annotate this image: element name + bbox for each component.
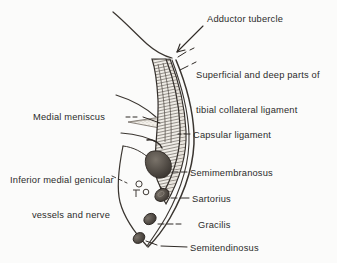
label-capsular-ligament: Capsular ligament	[193, 130, 271, 142]
label-semimembranosus: Semimembranosus	[190, 168, 273, 180]
label-line-1: Superficial and deep parts of	[196, 70, 320, 82]
label-line-1: Inferior medial genicular	[10, 175, 110, 187]
label-tibial-collateral-ligament: Superficial and deep parts of tibial col…	[196, 47, 320, 139]
genicular-vessels	[133, 181, 149, 197]
label-inferior-medial-genicular: Inferior medial genicular vessels and ne…	[10, 152, 110, 244]
anatomical-figure: Adductor tubercle Superficial and deep p…	[0, 0, 337, 263]
leader-genicular	[112, 176, 127, 183]
label-sartorius: Sartorius	[192, 194, 231, 206]
leader-deep-part	[180, 62, 196, 70]
gracilis-tendon	[142, 211, 159, 227]
label-line-2: vessels and nerve	[10, 210, 110, 222]
label-line-2: tibial collateral ligament	[196, 105, 320, 117]
label-gracilis: Gracilis	[198, 220, 230, 232]
label-medial-meniscus: Medial meniscus	[33, 112, 105, 124]
label-adductor-tubercle: Adductor tubercle	[207, 14, 283, 26]
label-semitendinosus: Semitendinosus	[190, 243, 259, 255]
